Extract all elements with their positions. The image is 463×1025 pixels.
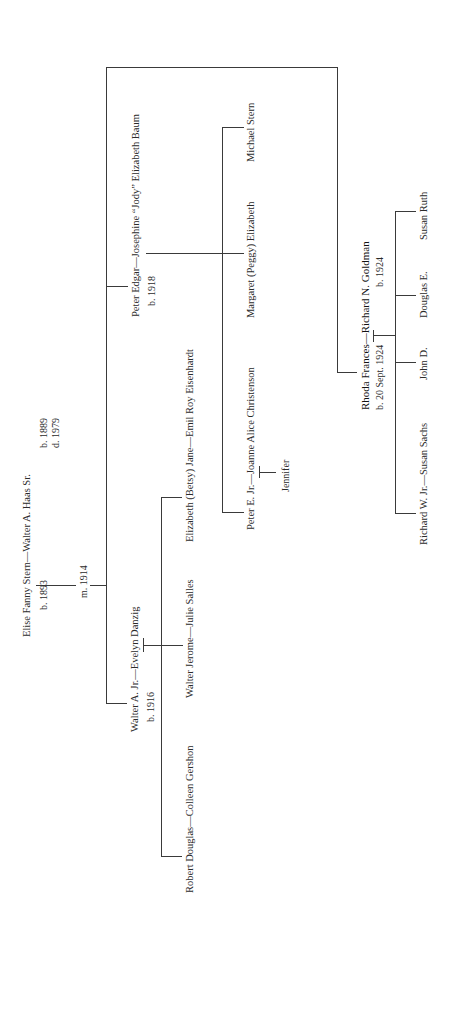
rhoda-name: Rhoda Frances—Richard N. Goldman <box>359 241 371 410</box>
peter-child-3: Michael Stern <box>245 103 257 162</box>
rhoda-child-3: Douglas E. <box>418 271 430 318</box>
peter-edgar-marriage-line <box>146 253 244 254</box>
peter-child-michael-branch <box>222 127 244 128</box>
root-married-year: m. 1914 <box>78 565 90 598</box>
rhoda-child-2: John D. <box>418 347 430 380</box>
rhoda-vertical <box>337 67 338 372</box>
rhoda-husband-born: b. 1924 <box>374 257 386 287</box>
root-wife-born: b. 1893 <box>38 580 50 610</box>
rhoda-child-douglas-branch <box>395 295 416 296</box>
walter-jr-branch <box>106 703 127 704</box>
root-marriage-line-right <box>90 585 106 586</box>
walter-jr-couple: Walter A. Jr.—Evelyn Danzig <box>129 607 141 732</box>
rhoda-child-4: Susan Ruth <box>418 192 430 240</box>
root-husband-died: d. 1979 <box>50 418 62 448</box>
peter-child-peter-jr-branch <box>222 512 244 513</box>
walter-jr-child-2: Walter Jerome—Julie Salles <box>184 579 196 698</box>
walter-jr-child-3: Elizabeth (Betsy) Jane—Emil Roy Eisenhar… <box>184 349 196 542</box>
rhoda-child-1: Richard W. Jr.—Susan Sachs <box>418 423 430 545</box>
root-children-vertical <box>106 67 107 704</box>
walter-jr-born: b. 1916 <box>145 692 157 722</box>
rhoda-marriage-tick <box>373 330 374 342</box>
peter-edgar-couple: Peter Edgar—Josephine “Jody” Elizabeth B… <box>130 114 142 317</box>
rhoda-child-richard-branch <box>395 513 416 514</box>
rhoda-child-john-branch <box>395 362 416 363</box>
walter-jr-marriage-tick <box>143 638 144 652</box>
peter-child-2: Margaret (Peggy) Elizabeth <box>245 202 257 318</box>
peter-jr-child-line <box>259 472 276 473</box>
rhoda-born: b. 20 Sept. 1924 <box>374 345 386 410</box>
root-husband-born: b. 1889 <box>38 418 50 448</box>
top-bar <box>106 67 337 68</box>
rhoda-marriage-line <box>373 335 395 336</box>
walter-jr-child-1: Robert Douglas—Colleen Gershon <box>184 745 196 893</box>
walter-jr-children-vertical <box>161 497 162 856</box>
walter-jr-child-betsy-branch <box>161 497 182 498</box>
peter-child-1: Peter E. Jr.—Joanne Alice Christenson <box>245 367 257 530</box>
walter-jr-marriage-line <box>143 645 183 646</box>
walter-jr-child-robert-branch <box>161 856 182 857</box>
peter-edgar-born: b. 1918 <box>146 276 158 306</box>
root-couple-names: Elise Fanny Stern—Walter A. Haas Sr. <box>21 474 33 637</box>
rhoda-branch <box>337 372 357 373</box>
rhoda-wife-name: Rhoda Frances <box>359 344 371 410</box>
peter-grandchild: Jennifer <box>280 460 292 492</box>
peter-edgar-children-vertical <box>222 127 223 512</box>
rhoda-child-susan-ruth-branch <box>395 211 416 212</box>
peter-edgar-branch <box>106 286 128 287</box>
rhoda-husband-name: —Richard N. Goldman <box>359 241 371 344</box>
